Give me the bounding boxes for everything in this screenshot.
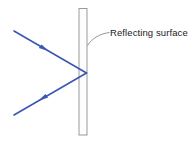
leader-line — [88, 33, 110, 46]
reflected-ray — [14, 73, 87, 115]
reflection-diagram: Reflecting surface — [0, 0, 195, 143]
reflected-ray-arrow-icon — [38, 94, 48, 101]
incident-ray — [14, 31, 87, 73]
reflecting-surface-label: Reflecting surface — [110, 27, 188, 38]
diagram-canvas: Reflecting surface — [0, 0, 195, 143]
